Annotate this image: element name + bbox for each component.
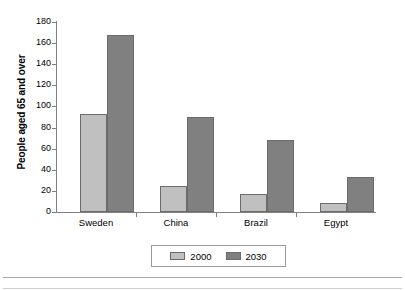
- bar-china-2030: [187, 117, 214, 212]
- y-tick-label: 0: [46, 206, 51, 216]
- y-tick-label: 40: [41, 164, 51, 174]
- x-category-label-brazil: Brazil: [211, 217, 301, 228]
- chart-legend: 2000 2030: [151, 245, 286, 267]
- horizontal-rule-secondary: [3, 288, 402, 289]
- y-tick-label: 160: [36, 37, 51, 47]
- y-tick-label: 80: [41, 122, 51, 132]
- x-category-label-egypt: Egypt: [291, 217, 381, 228]
- y-tick-label: 140: [36, 58, 51, 68]
- legend-label: 2000: [190, 251, 211, 262]
- bar-china-2000: [160, 186, 187, 212]
- y-tick-label: 180: [36, 16, 51, 26]
- x-category-label-china: China: [131, 217, 221, 228]
- y-tick-label: 120: [36, 79, 51, 89]
- bar-sweden-2030: [107, 35, 134, 212]
- bar-egypt-2030: [347, 177, 374, 212]
- y-tick-label: 20: [41, 185, 51, 195]
- bar-egypt-2000: [320, 203, 347, 213]
- legend-swatch-icon: [226, 252, 241, 260]
- y-tick-label: 100: [36, 100, 51, 110]
- plot-area: [57, 22, 375, 212]
- y-tick-mark: [52, 212, 57, 213]
- bar-brazil-2000: [240, 194, 267, 212]
- bar-chart-figure: People aged 65 and over 180 160 140 120 …: [0, 0, 405, 290]
- legend-entry-2000: 2000: [170, 251, 211, 262]
- y-tick-label: 60: [41, 143, 51, 153]
- y-axis-title: People aged 65 and over: [14, 12, 30, 212]
- legend-label: 2030: [246, 251, 267, 262]
- legend-entry-2030: 2030: [226, 251, 267, 262]
- bar-sweden-2000: [80, 114, 107, 212]
- legend-swatch-icon: [170, 252, 185, 260]
- x-category-label-sweden: Sweden: [51, 217, 141, 228]
- bar-brazil-2030: [267, 140, 294, 212]
- horizontal-rule: [3, 277, 402, 278]
